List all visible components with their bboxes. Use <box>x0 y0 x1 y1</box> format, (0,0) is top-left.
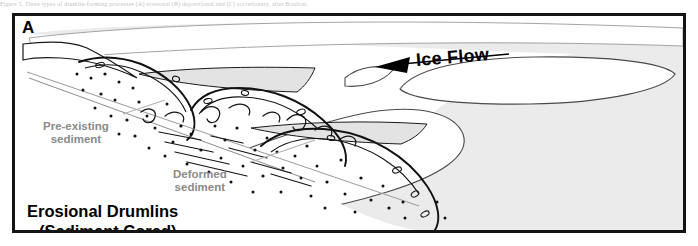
label-deformed-sediment: Deformed sediment <box>173 168 227 193</box>
label-pre-existing-line2: sediment <box>51 133 102 145</box>
figure-root: Figure 5. Three types of drumlin-forming… <box>0 0 698 246</box>
diagram-panel-a: A Pre-existing sediment Deformed sedimen… <box>12 13 686 233</box>
figure-title-line1: Erosional Drumlins <box>27 202 178 220</box>
figure-title-line2: (Sediment Cored) <box>27 221 178 233</box>
label-deformed-line2: sediment <box>175 181 226 193</box>
figure-caption-strip: Figure 5. Three types of drumlin-forming… <box>0 0 698 9</box>
label-deformed-line1: Deformed <box>173 168 227 180</box>
figure-title: Erosional Drumlins (Sediment Cored) <box>27 201 178 233</box>
panel-letter-a: A <box>22 18 34 38</box>
label-pre-existing-sediment: Pre-existing sediment <box>43 120 109 145</box>
label-pre-existing-line1: Pre-existing <box>43 120 109 132</box>
drumlin-diagram-svg <box>15 16 683 230</box>
